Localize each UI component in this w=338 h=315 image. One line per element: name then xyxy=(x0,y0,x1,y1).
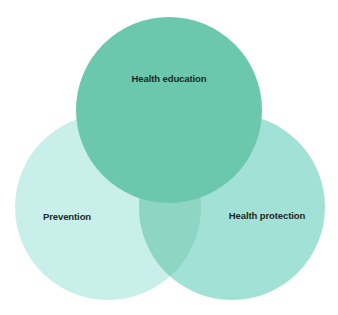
label-prevention: Prevention xyxy=(43,211,91,222)
venn-diagram xyxy=(0,0,338,315)
label-health-education: Health education xyxy=(132,73,207,84)
circle-health-education xyxy=(76,17,262,203)
label-health-protection: Health protection xyxy=(229,210,305,221)
